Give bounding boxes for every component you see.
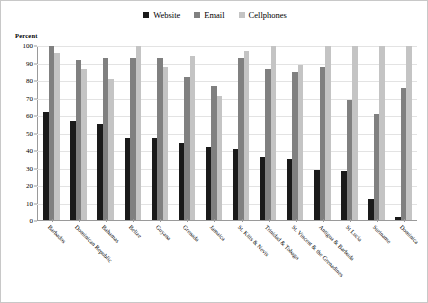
- x-label-cell: Belize: [119, 222, 146, 302]
- y-tick-label: 70: [26, 95, 33, 103]
- x-label-cell: Jamaica: [201, 222, 228, 302]
- bar-group: [119, 46, 146, 220]
- bar-cellphones[interactable]: [298, 65, 304, 220]
- y-tick-mark: [34, 81, 37, 82]
- x-tick-mark: [377, 219, 378, 222]
- bar-cellphones[interactable]: [271, 46, 277, 220]
- y-tick-label: 100: [23, 42, 34, 50]
- bar-group: [255, 46, 282, 220]
- bar-cellphones[interactable]: [406, 46, 412, 220]
- y-tick-label: 40: [26, 147, 33, 155]
- x-tick-mark: [269, 219, 270, 222]
- x-tick-mark: [350, 219, 351, 222]
- legend-label: Cellphones: [249, 11, 287, 20]
- bar-chart-figure: WebsiteEmailCellphones Percent 010203040…: [0, 0, 428, 303]
- y-tick-mark: [34, 151, 37, 152]
- y-tick-label: 30: [26, 165, 33, 173]
- bar-cellphones[interactable]: [81, 69, 87, 220]
- bar-cellphones[interactable]: [163, 67, 169, 220]
- bar-group: [65, 46, 92, 220]
- bar-group: [336, 46, 363, 220]
- y-tick-mark: [34, 203, 37, 204]
- y-tick-label: 90: [26, 60, 33, 68]
- x-axis-category-label: Jamaica: [209, 224, 227, 242]
- x-tick-mark: [404, 219, 405, 222]
- bar-group: [363, 46, 390, 220]
- x-axis-category-label: Dominica: [399, 224, 420, 245]
- bar-group: [146, 46, 173, 220]
- x-tick-mark: [133, 219, 134, 222]
- bar-cellphones[interactable]: [217, 96, 223, 220]
- x-axis-category-label: Grenada: [182, 224, 201, 243]
- y-tick-label: 60: [26, 112, 33, 120]
- bar-cellphones[interactable]: [325, 46, 331, 220]
- chart-legend: WebsiteEmailCellphones: [1, 11, 428, 20]
- x-label-cell: Dominican Republic: [65, 222, 92, 302]
- bar-group: [309, 46, 336, 220]
- x-tick-mark: [296, 219, 297, 222]
- bar-group: [390, 46, 417, 220]
- x-axis-category-label: Barbados: [46, 224, 66, 244]
- x-label-cell: Suriname: [364, 222, 391, 302]
- x-label-cell: Guyana: [147, 222, 174, 302]
- x-tick-mark: [323, 219, 324, 222]
- x-tick-mark: [79, 219, 80, 222]
- x-label-cell: Dominica: [391, 222, 418, 302]
- y-tick-mark: [34, 186, 37, 187]
- square-swatch-icon: [239, 12, 245, 18]
- bar-cellphones[interactable]: [244, 51, 250, 220]
- x-tick-mark: [106, 219, 107, 222]
- x-label-cell: St Lucia: [337, 222, 364, 302]
- x-tick-mark: [187, 219, 188, 222]
- x-tick-mark: [52, 219, 53, 222]
- y-axis-title: Percent: [15, 32, 38, 39]
- bar-group: [38, 46, 65, 220]
- x-axis-line: [37, 220, 417, 221]
- y-tick-label: 20: [26, 182, 33, 190]
- x-label-cell: Barbados: [38, 222, 65, 302]
- x-axis-labels: BarbadosDominican RepublicBahamasBelizeG…: [38, 222, 418, 302]
- x-label-cell: Bahamas: [92, 222, 119, 302]
- y-tick-label: 10: [26, 200, 33, 208]
- x-label-cell: Trinidad & Tobago: [255, 222, 282, 302]
- legend-label: Email: [204, 11, 224, 20]
- y-tick-mark: [34, 63, 37, 64]
- bar-group: [228, 46, 255, 220]
- y-tick-label: 50: [26, 130, 33, 138]
- legend-label: Website: [153, 11, 180, 20]
- x-tick-mark: [214, 219, 215, 222]
- plot-area: 0102030405060708090100: [37, 46, 417, 221]
- bar-group: [92, 46, 119, 220]
- bar-cellphones[interactable]: [379, 46, 385, 220]
- x-label-cell: St. Kitts & Nevis: [228, 222, 255, 302]
- x-label-cell: Grenada: [174, 222, 201, 302]
- x-axis-category-label: Suriname: [372, 224, 393, 245]
- bar-cellphones[interactable]: [190, 56, 196, 220]
- x-tick-mark: [242, 219, 243, 222]
- square-swatch-icon: [194, 12, 200, 18]
- bar-cellphones[interactable]: [54, 53, 60, 220]
- x-tick-mark: [160, 219, 161, 222]
- y-tick-mark: [34, 116, 37, 117]
- x-axis-category-label: Bahamas: [101, 224, 121, 244]
- bar-group: [173, 46, 200, 220]
- bar-cellphones[interactable]: [352, 46, 358, 220]
- y-tick-mark: [34, 133, 37, 134]
- x-label-cell: Antigua & Barbuda: [309, 222, 336, 302]
- legend-entry-cellphones[interactable]: Cellphones: [239, 11, 287, 20]
- bar-cellphones[interactable]: [108, 79, 114, 220]
- bars-layer: [38, 46, 417, 220]
- x-axis-category-label: St Lucia: [345, 224, 364, 243]
- bar-cellphones[interactable]: [136, 46, 142, 220]
- y-tick-mark: [34, 98, 37, 99]
- x-axis-category-label: Belize: [128, 224, 143, 239]
- y-tick-mark: [34, 221, 37, 222]
- x-label-cell: St. Vincent & the Grenadines: [282, 222, 309, 302]
- bar-group: [200, 46, 227, 220]
- y-tick-mark: [34, 46, 37, 47]
- x-axis-category-label: Guyana: [155, 224, 172, 241]
- y-tick-mark: [34, 168, 37, 169]
- legend-entry-email[interactable]: Email: [194, 11, 224, 20]
- square-swatch-icon: [143, 12, 149, 18]
- legend-entry-website[interactable]: Website: [143, 11, 180, 20]
